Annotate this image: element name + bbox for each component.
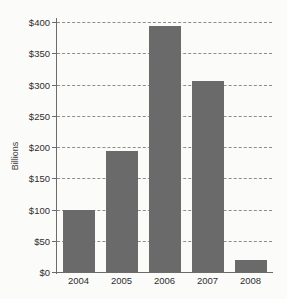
x-tick-label: 2007 (186, 275, 229, 286)
y-tick-mark (52, 147, 57, 148)
y-tick-label: $300 (16, 79, 50, 90)
bar (106, 151, 138, 272)
y-tick-mark (52, 22, 57, 23)
y-tick-label: $0 (16, 267, 50, 278)
x-axis-tick-labels: 20042005200620072008 (57, 275, 272, 291)
bar-chart-figure: Billions $0$50$100$150$200$250$300$350$4… (0, 0, 287, 299)
y-tick-mark (52, 85, 57, 86)
x-tick-label: 2008 (229, 275, 272, 286)
x-tick-label: 2004 (57, 275, 100, 286)
x-axis-line (56, 272, 273, 273)
y-tick-label: $350 (16, 48, 50, 59)
y-tick-mark (52, 178, 57, 179)
bar (63, 210, 95, 273)
y-tick-mark (52, 210, 57, 211)
y-tick-label: $50 (16, 235, 50, 246)
x-tick-label: 2005 (100, 275, 143, 286)
x-tick-label: 2006 (143, 275, 186, 286)
plot-area (57, 22, 272, 272)
y-axis-tick-labels: $0$50$100$150$200$250$300$350$400 (12, 0, 50, 299)
gridline (57, 22, 272, 23)
bar (149, 26, 181, 272)
y-tick-label: $100 (16, 204, 50, 215)
y-tick-label: $200 (16, 142, 50, 153)
bar (235, 260, 267, 273)
y-tick-label: $250 (16, 110, 50, 121)
y-tick-label: $400 (16, 17, 50, 28)
y-axis-line (56, 18, 57, 274)
y-tick-mark (52, 116, 57, 117)
y-tick-label: $150 (16, 173, 50, 184)
y-tick-mark (52, 53, 57, 54)
y-tick-mark (52, 272, 57, 273)
bar (192, 81, 224, 272)
y-tick-mark (52, 241, 57, 242)
